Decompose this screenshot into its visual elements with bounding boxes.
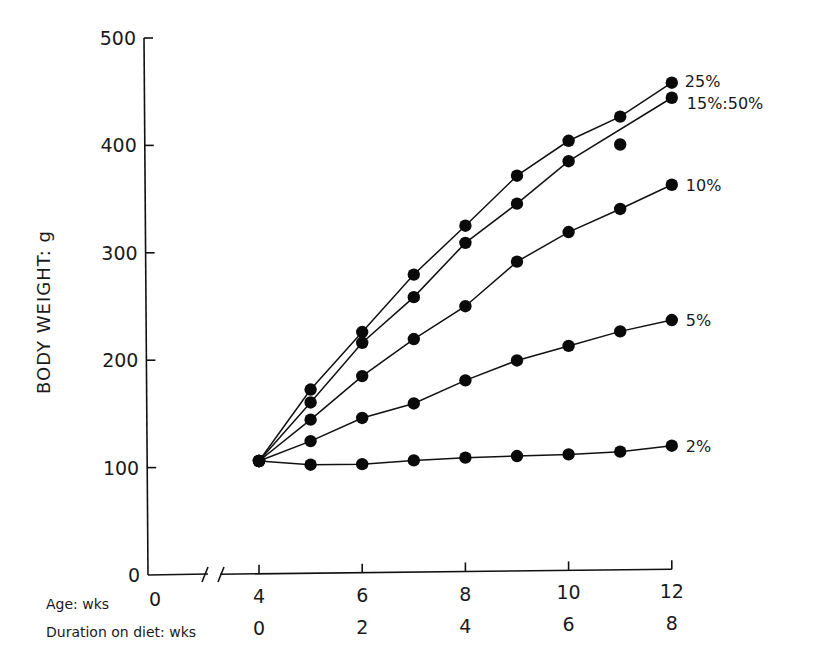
x-tick-label-age: 4: [253, 585, 265, 607]
data-point: [666, 440, 678, 452]
data-point: [356, 337, 368, 349]
series-label: 5%: [686, 311, 711, 330]
data-point: [304, 413, 316, 425]
data-point: [304, 396, 316, 408]
data-point: [304, 459, 316, 471]
data-point: [356, 370, 368, 382]
x-tick-label-duration: 4: [459, 615, 471, 637]
data-series: 25%15%:50%10%5%2%: [253, 72, 764, 471]
x-tick-label-age: 6: [356, 584, 368, 606]
x-axis-ticks-age: 04681012: [149, 580, 684, 610]
data-point: [356, 326, 368, 338]
body-weight-chart: BODY WEIGHT: g 0100200300400500 04681012…: [0, 0, 814, 668]
data-point: [304, 435, 316, 447]
x-tick-label-duration: 6: [563, 613, 575, 635]
data-point: [408, 268, 420, 280]
y-tick-label: 300: [101, 242, 137, 264]
x-axis-label-duration: Duration on diet: wks: [46, 624, 196, 640]
y-axis-line: [144, 38, 148, 575]
series-25-: 25%: [253, 72, 721, 467]
y-tick-label: 400: [101, 134, 137, 156]
x-tick-label-duration: 0: [253, 617, 265, 639]
y-tick-label: 100: [103, 457, 139, 479]
data-point: [614, 445, 626, 457]
x-tick-label-age: 12: [660, 580, 684, 602]
data-point: [666, 179, 678, 191]
x-axis-ticks-duration: 02468: [253, 612, 678, 639]
data-point: [511, 450, 523, 462]
series-15-50-: 15%:50%: [253, 92, 764, 468]
data-point: [511, 255, 523, 267]
data-point: [459, 219, 471, 231]
x-axis-line: [220, 569, 672, 574]
x-tick-label-age: 0: [149, 588, 161, 610]
data-point: [459, 237, 471, 249]
y-tick-label: 0: [128, 564, 140, 586]
data-point: [562, 226, 574, 238]
data-point: [562, 155, 574, 167]
data-point: [614, 110, 626, 122]
series-label: 2%: [686, 437, 711, 456]
data-point: [408, 454, 420, 466]
data-point: [562, 448, 574, 460]
x-tick-label-age: 10: [557, 581, 581, 603]
data-point: [408, 291, 420, 303]
series-10-: 10%: [253, 176, 722, 467]
data-point: [511, 170, 523, 182]
series-label: 25%: [685, 72, 721, 91]
data-point: [304, 383, 316, 395]
y-tick-label: 500: [100, 27, 136, 49]
x-axis-label-age: Age: wks: [46, 596, 109, 612]
x-tick-label-age: 8: [459, 583, 471, 605]
x-tick-label-duration: 2: [356, 616, 368, 638]
y-axis-title: BODY WEIGHT: g: [33, 230, 54, 394]
data-point: [666, 92, 678, 104]
data-point: [614, 325, 626, 337]
data-point: [356, 458, 368, 470]
data-point: [356, 412, 368, 424]
x-tick-label-duration: 8: [666, 612, 678, 634]
data-point: [511, 354, 523, 366]
axes: [144, 38, 672, 582]
series-2-: 2%: [253, 437, 711, 471]
data-point: [511, 197, 523, 209]
data-point: [614, 203, 626, 215]
y-axis-ticks: 0100200300400500: [100, 27, 140, 586]
data-point: [666, 314, 678, 326]
data-point: [666, 77, 678, 89]
data-point: [253, 455, 265, 467]
data-point: [408, 333, 420, 345]
data-point: [459, 451, 471, 463]
data-point: [459, 300, 471, 312]
series-label: 10%: [686, 176, 722, 195]
data-point: [562, 135, 574, 147]
data-point-unconnected: [614, 138, 626, 150]
data-point: [459, 374, 471, 386]
data-point: [562, 340, 574, 352]
data-point: [408, 397, 420, 409]
series-label: 15%:50%: [687, 94, 764, 113]
y-tick-label: 200: [102, 349, 138, 371]
